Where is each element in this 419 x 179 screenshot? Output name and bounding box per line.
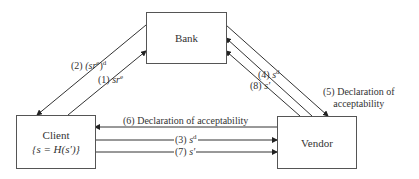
edge-label-4: (4) sd [258, 69, 280, 80]
edge-label-8: (8) s′ [250, 80, 270, 91]
edge-label-1: (1) sre [98, 74, 123, 85]
vendor-node: Vendor [277, 116, 357, 169]
edge-label-2: (2) (sre)d [71, 60, 106, 71]
client-node: Client {s = H(s′)} [16, 115, 96, 169]
bank-node: Bank [146, 12, 227, 64]
vendor-label: Vendor [301, 136, 333, 150]
client-formula: {s = H(s′)} [32, 142, 80, 156]
bank-label: Bank [175, 31, 198, 45]
edge-label-6: (6) Declaration of acceptability [123, 115, 248, 126]
edge-label-3: (3) sd [174, 134, 198, 145]
client-label: Client [43, 128, 70, 142]
edge-label-5: (5) Declaration of acceptability [323, 86, 395, 109]
edge-label-7: (7) s′ [174, 146, 196, 157]
